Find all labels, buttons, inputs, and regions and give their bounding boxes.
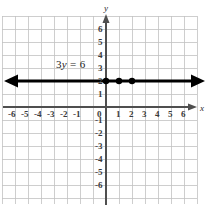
y-tick-label-5: 5 [98,38,103,47]
x-tick-label-neg2: -2 [60,110,68,119]
y-tick-label-1: 1 [98,90,103,99]
graph-canvas [0,0,209,208]
x-tick-label-1: 1 [116,110,121,119]
plotted-points [103,78,135,84]
y-tick-label-2: 2 [98,77,103,86]
point-1-2 [116,78,122,84]
line-arrowhead-left [4,75,18,88]
point-2-2 [129,78,135,84]
point-0-2 [103,78,109,84]
line-arrowhead-right [191,75,205,88]
y-tick-label-neg2: -2 [95,129,103,138]
y-tick-label-4: 4 [98,51,103,60]
coordinate-plane-figure: -6 -5 -4 -3 -2 -1 0 1 2 3 4 5 6 6 5 4 3 … [0,0,209,208]
x-tick-label-6: 6 [181,110,186,119]
x-tick-label-neg3: -3 [47,110,55,119]
y-tick-label-neg3: -3 [95,142,103,151]
x-tick-label-neg5: -5 [21,110,29,119]
x-tick-label-neg6: -6 [8,110,16,119]
y-tick-label-neg1: -1 [95,116,103,125]
y-tick-label-neg4: -4 [95,155,103,164]
x-tick-label-2: 2 [129,110,134,119]
y-axis-label: y [104,4,108,13]
x-axis-arrowhead [188,104,197,111]
y-tick-label-neg5: -5 [95,168,103,177]
x-tick-label-5: 5 [168,110,173,119]
y-tick-label-6: 6 [98,25,103,34]
x-tick-label-3: 3 [142,110,147,119]
x-tick-label-neg1: -1 [73,110,81,119]
x-axis-label: x [200,104,204,113]
equation-relation: = [70,58,77,70]
y-tick-label-neg6: -6 [95,181,103,190]
equation-variable: y [62,58,67,70]
y-tick-label-3: 3 [98,64,103,73]
equation-label: 3y = 6 [56,58,85,70]
x-tick-label-neg4: -4 [34,110,42,119]
equation-right-side: 6 [80,58,86,70]
y-axis-arrowhead [103,14,110,23]
x-tick-label-4: 4 [155,110,160,119]
